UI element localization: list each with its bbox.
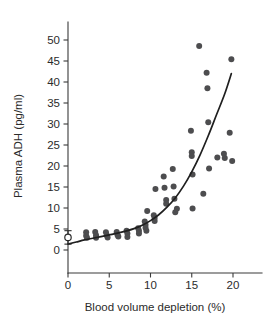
adh-depletion-scatter-figure: 05101520253035404550 05101520 Blood volu… — [0, 0, 278, 327]
y-tick-label: 20 — [47, 160, 60, 172]
data-point — [188, 128, 194, 134]
data-point — [136, 231, 142, 237]
data-points-group — [83, 43, 235, 241]
data-point — [222, 155, 228, 161]
y-axis-title: Plasma ADH (pg/ml) — [12, 94, 24, 198]
control-basal-marker-group — [64, 231, 71, 244]
data-point — [228, 56, 234, 62]
data-point — [200, 191, 206, 197]
data-point — [190, 205, 196, 211]
data-point — [205, 119, 211, 125]
data-point — [152, 186, 158, 192]
y-tick-label: 5 — [54, 223, 60, 235]
x-tick-group: 05101520 — [65, 273, 240, 291]
data-point — [170, 166, 176, 172]
data-point — [124, 234, 130, 240]
x-tick-label: 0 — [65, 279, 71, 291]
y-tick-label: 35 — [47, 97, 60, 109]
data-point — [206, 166, 212, 172]
data-point — [144, 208, 150, 214]
data-point — [161, 174, 167, 180]
data-point — [227, 130, 233, 136]
data-point — [214, 155, 220, 161]
data-point — [162, 185, 168, 191]
y-tick-label: 25 — [47, 139, 60, 151]
y-tick-label: 30 — [47, 118, 60, 130]
y-tick-group: 05101520253035404550 — [47, 34, 68, 256]
plot-canvas: 05101520253035404550 05101520 Blood volu… — [0, 0, 278, 327]
data-point — [229, 158, 235, 164]
y-tick-label: 0 — [54, 244, 60, 256]
data-point — [115, 234, 121, 240]
data-point — [189, 153, 195, 159]
y-tick-label: 15 — [47, 181, 60, 193]
x-axis: 05101520 — [65, 273, 262, 291]
x-tick-label: 5 — [106, 279, 112, 291]
exponential-fit-curve — [68, 74, 231, 245]
x-tick-label: 10 — [144, 279, 157, 291]
x-tick-label: 20 — [227, 279, 240, 291]
x-tick-label: 15 — [185, 279, 198, 291]
data-point — [204, 70, 210, 76]
y-tick-label: 40 — [47, 76, 60, 88]
data-point — [174, 206, 180, 212]
y-tick-label: 50 — [47, 34, 60, 46]
y-tick-label: 10 — [47, 202, 60, 214]
y-tick-label: 45 — [47, 55, 60, 67]
control-open-circle-marker — [65, 234, 71, 240]
data-point — [143, 228, 149, 234]
data-point — [171, 184, 177, 190]
data-point — [204, 85, 210, 91]
data-point — [196, 43, 202, 49]
x-axis-title: Blood volume depletion (%) — [85, 301, 226, 313]
